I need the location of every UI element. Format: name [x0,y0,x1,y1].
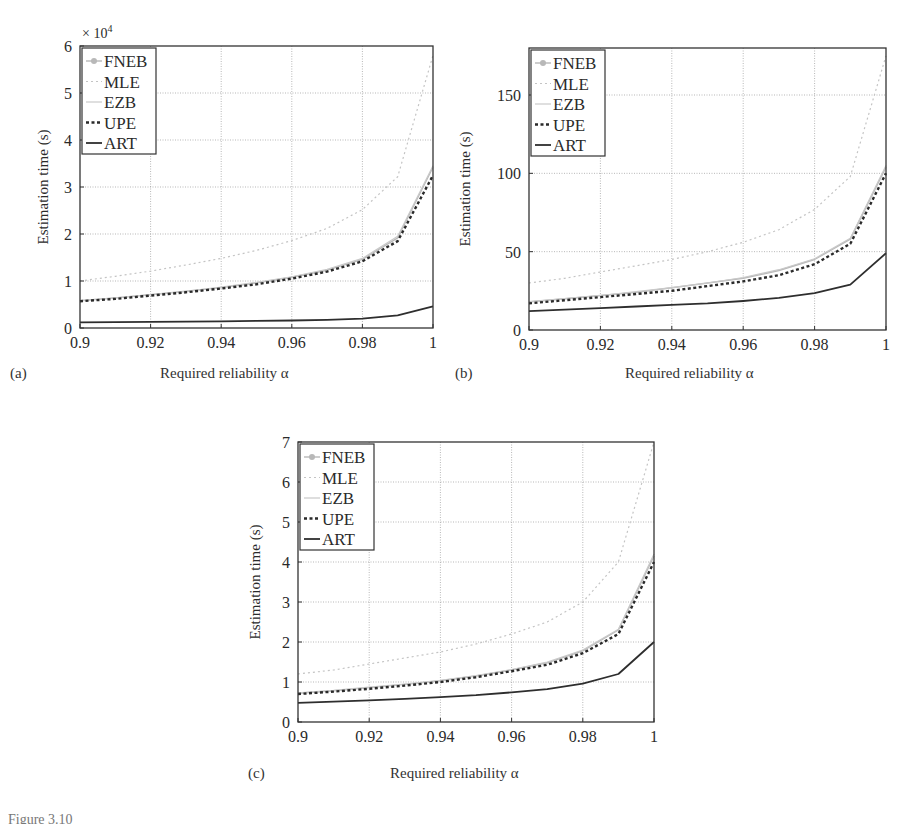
x-tick-label: 0.9 [288,728,308,745]
panel-label-a: (a) [10,365,27,382]
series-line-art [298,642,654,703]
x-tick-label: 1 [650,728,658,745]
legend: FNEBMLEEZBUPEART [82,48,156,154]
legend-label-upe: UPE [104,114,136,133]
legend-label-upe: UPE [322,510,354,529]
y-tick-label: 2 [282,634,290,651]
x-tick-label: 0.98 [569,728,597,745]
x-tick-label: 0.94 [207,334,235,351]
y-tick-label: 0 [282,714,290,731]
legend-label-ezb: EZB [553,95,585,114]
x-tick-label: 0.96 [278,334,306,351]
x-tick-label: 1 [882,336,890,353]
y-tick-label: 3 [64,179,72,196]
legend: FNEBMLEEZBUPEART [300,444,374,550]
legend-label-ezb: EZB [104,93,136,112]
panel-label-c: (c) [248,765,265,782]
legend: FNEBMLEEZBUPEART [531,50,605,156]
chart-panel-b: 0.90.920.940.960.981050100150Estimation … [450,0,909,390]
series-line-ezb [529,166,886,302]
figure-caption: Figure 3.10 [8,812,73,824]
series-line-fneb [298,556,654,693]
series-line-ezb [298,554,654,693]
legend-marker-fneb [540,60,546,66]
panel-label-b: (b) [455,365,473,382]
x-tick-label: 0.94 [426,728,454,745]
series-line-upe [298,562,654,694]
x-tick-label: 0.92 [355,728,383,745]
y-tick-label: 7 [282,434,290,451]
legend-label-art: ART [104,134,138,153]
chart-b-svg: 0.90.920.940.960.981050100150Estimation … [450,0,909,390]
x-tick-label: 0.98 [801,336,829,353]
y-tick-label: 1 [64,273,72,290]
legend-label-upe: UPE [553,116,585,135]
y-tick-label: 1 [282,674,290,691]
series-line-art [529,253,886,311]
y-axis-label: Estimation time (s) [35,130,52,245]
legend-label-mle: MLE [322,469,358,488]
y-tick-label: 100 [497,165,521,182]
legend-label-art: ART [322,530,356,549]
legend-label-ezb: EZB [322,489,354,508]
y-tick-label: 0 [64,320,72,337]
x-tick-label: 0.92 [586,336,614,353]
legend-label-mle: MLE [553,75,589,94]
legend-label-mle: MLE [104,73,140,92]
chart-panel-a: 0.90.920.940.960.9810123456× 104Estimati… [0,0,450,390]
x-tick-label: 0.9 [519,336,539,353]
legend-label-fneb: FNEB [104,52,147,71]
x-axis-label-c: Required reliability α [390,765,519,782]
y-tick-label: 6 [282,474,290,491]
series-line-ezb [80,166,433,301]
x-tick-label: 0.9 [70,334,90,351]
y-axis-label: Estimation time (s) [247,525,264,640]
y-tick-label: 50 [505,244,521,261]
x-tick-label: 0.92 [137,334,165,351]
x-tick-label: 0.94 [658,336,686,353]
y-tick-label: 6 [64,38,72,55]
y-tick-label: 3 [282,594,290,611]
x-axis-label-a: Required reliability α [160,365,289,382]
x-tick-label: 0.96 [729,336,757,353]
y-tick-label: 2 [64,226,72,243]
x-tick-label: 0.96 [498,728,526,745]
chart-panel-c: 0.90.920.940.960.98101234567Estimation t… [220,400,680,790]
y-multiplier-exponent: 4 [107,23,112,34]
series-line-fneb [529,167,886,302]
y-axis-label: Estimation time (s) [457,132,474,247]
legend-marker-fneb [91,58,97,64]
y-tick-label: 150 [497,87,521,104]
legend-label-fneb: FNEB [553,54,596,73]
y-multiplier-label: × 104 [82,23,112,41]
legend-label-fneb: FNEB [322,448,365,467]
y-tick-label: 0 [513,322,521,339]
x-tick-label: 1 [429,334,437,351]
legend-marker-fneb [309,454,315,460]
x-tick-label: 0.98 [348,334,376,351]
y-tick-label: 4 [64,132,72,149]
x-axis-label-b: Required reliability α [625,365,754,382]
chart-c-svg: 0.90.920.940.960.98101234567Estimation t… [220,400,680,790]
y-tick-label: 5 [64,85,72,102]
chart-a-svg: 0.90.920.940.960.9810123456× 104Estimati… [0,0,450,390]
y-tick-label: 4 [282,554,290,571]
y-tick-label: 5 [282,514,290,531]
series-line-art [80,306,433,322]
legend-label-art: ART [553,136,587,155]
